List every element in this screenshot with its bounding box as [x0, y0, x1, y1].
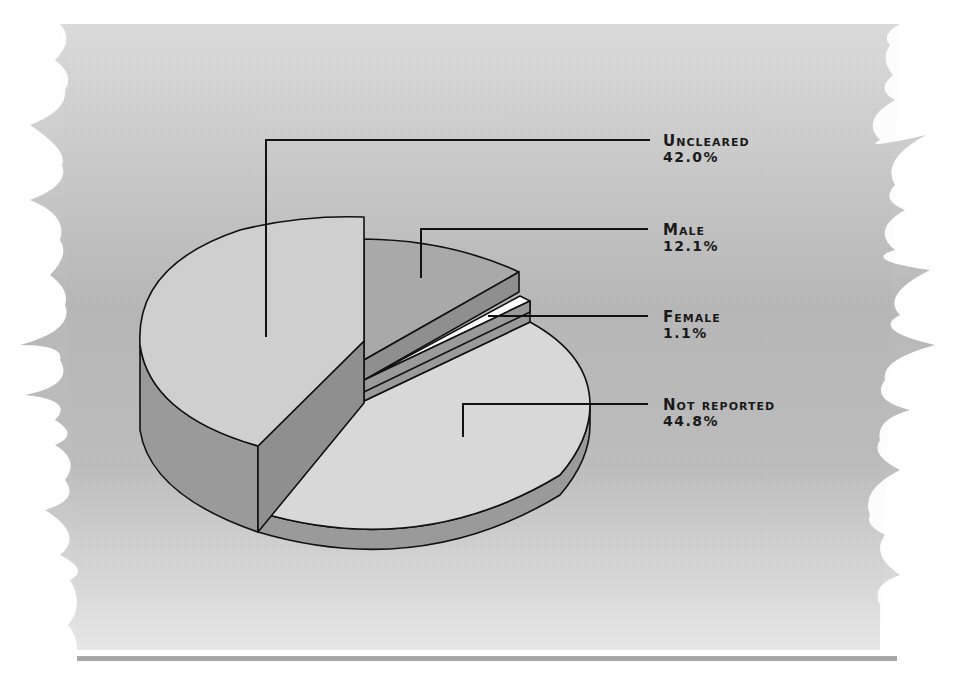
label-female-value: 1.1%: [663, 325, 721, 341]
label-male-name: Male: [663, 222, 719, 238]
label-male-value: 12.1%: [663, 238, 719, 254]
label-not-reported-value: 44.8%: [663, 413, 775, 429]
label-uncleared: Uncleared 42.0%: [663, 133, 750, 165]
label-not-reported: Not reported 44.8%: [663, 397, 775, 429]
label-female: Female 1.1%: [663, 309, 721, 341]
label-male: Male 12.1%: [663, 222, 719, 254]
label-female-name: Female: [663, 309, 721, 325]
label-uncleared-value: 42.0%: [663, 149, 750, 165]
label-uncleared-name: Uncleared: [663, 133, 750, 149]
label-not-reported-name: Not reported: [663, 397, 775, 413]
bottom-rule: [77, 656, 897, 661]
pie-chart-canvas: [0, 0, 961, 682]
